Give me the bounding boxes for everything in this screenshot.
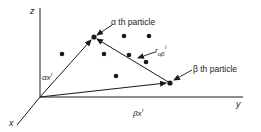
alpha-particle (91, 34, 96, 39)
y-axis-label: y (236, 100, 241, 109)
particle-dot (147, 34, 152, 39)
alpha-label-leader (97, 25, 112, 35)
r-label-leader (138, 52, 155, 58)
particle-dot (127, 53, 132, 58)
beta-position-vector (40, 83, 166, 97)
beta-position-label: βxi (133, 107, 143, 118)
beta-particle-label: β th particle (193, 65, 237, 74)
x-axis-label: x (9, 119, 14, 128)
particle-dot (60, 52, 65, 57)
alpha-position-label: αxi (42, 71, 52, 82)
beta-particle (167, 80, 172, 85)
particle-dot (114, 74, 119, 79)
beta-label-leader (174, 70, 192, 80)
particle-dot (144, 60, 149, 65)
particle-dot (122, 34, 127, 39)
z-axis-label: z (30, 7, 35, 16)
alpha-position-vector (40, 40, 91, 97)
x-axis (17, 97, 40, 125)
alpha-particle-label: α th particle (111, 18, 155, 27)
particle-position-diagram: z y x α th particle β th particle αxi βx… (0, 0, 261, 132)
relative-position-label: rαβi (155, 44, 166, 57)
particle-dot (102, 52, 107, 57)
